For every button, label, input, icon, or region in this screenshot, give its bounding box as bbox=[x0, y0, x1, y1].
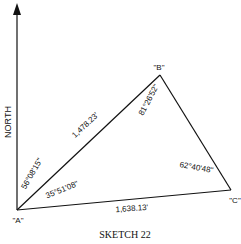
north-label: NORTH bbox=[3, 106, 13, 138]
angle-at-b: 81°26'52" bbox=[137, 82, 161, 117]
north-arrowhead-icon bbox=[13, 3, 21, 15]
angle-north-ab: 56°08'15" bbox=[19, 157, 44, 191]
angle-at-a: 35°51'08" bbox=[44, 179, 79, 200]
point-a-label: "A" bbox=[12, 216, 23, 225]
survey-sketch: NORTH "A" "B" "C" 1,478.23' 1,638.13' 56… bbox=[0, 0, 241, 244]
line-ab bbox=[17, 75, 160, 210]
angle-at-c: 62°40'48" bbox=[179, 160, 214, 175]
point-b-label: "B" bbox=[153, 63, 164, 72]
line-bc bbox=[160, 75, 231, 190]
point-c-label: "C" bbox=[229, 196, 241, 205]
sketch-caption: SKETCH 22 bbox=[99, 229, 150, 240]
north-arrow bbox=[13, 3, 21, 210]
distance-ac: 1,638.13' bbox=[115, 203, 149, 214]
